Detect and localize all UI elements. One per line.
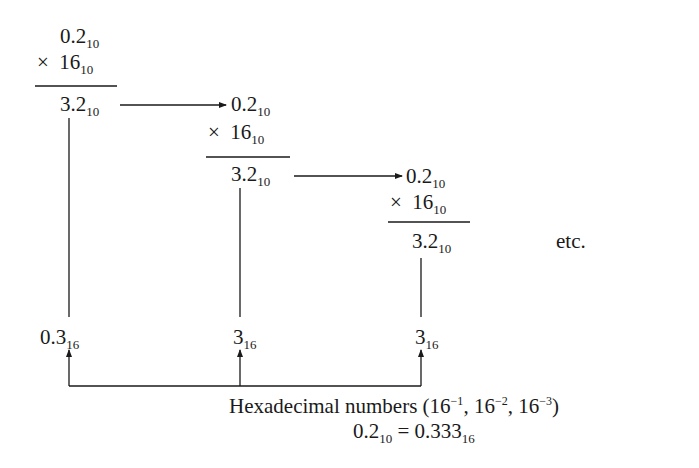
product-1: 3.210 [60,94,99,115]
etc-label: etc. [556,231,586,252]
multiplicand-2: 0.210 [231,94,270,115]
multiplier-1: × 1610 [37,52,93,73]
multiplier-3: × 1610 [390,192,446,213]
product-2: 3.210 [231,164,270,185]
hex-digit-3: 316 [415,327,439,348]
caption-line-1: Hexadecimal numbers (16−1, 16−2, 16−3) [229,396,559,417]
multiplicand-3: 0.210 [406,166,445,187]
product-3: 3.210 [412,231,451,252]
hex-digit-1: 0.316 [40,327,79,348]
multiplier-2: × 1610 [208,122,264,143]
hex-digit-2: 316 [233,327,257,348]
multiplicand-1: 0.210 [60,26,99,47]
caption-line-2: 0.210 = 0.33316 [353,421,475,442]
